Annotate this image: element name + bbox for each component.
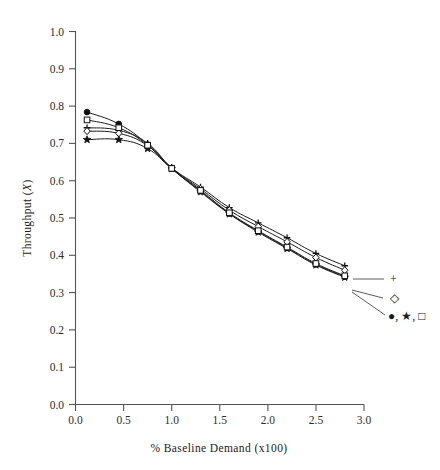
- x-axis-ticklabels: 0.0 0.5 1.0 1.5 2.0 2.5 3.0: [68, 414, 371, 426]
- x-ticklabel: 0.0: [68, 414, 83, 426]
- series-plus: [84, 124, 348, 269]
- datapoint-filled-star: [83, 136, 90, 143]
- throughput-vs-baseline-demand-chart: 1.0 0.9 0.8 0.7 0.6 0.5 0.4 0.3 0.2 0.1 …: [0, 0, 440, 470]
- y-ticklabel: 0.6: [50, 175, 65, 187]
- y-ticklabel: 0.5: [50, 212, 65, 224]
- x-ticklabel: 1.5: [213, 414, 228, 426]
- y-ticklabel: 0.1: [50, 361, 65, 373]
- series-line-filled-star: [87, 139, 345, 278]
- datapoint-open-square: [284, 244, 290, 250]
- x-ticklabel: 3.0: [357, 414, 372, 426]
- y-ticklabel: 0.7: [50, 137, 65, 149]
- datapoint-open-square: [227, 210, 233, 216]
- data-series-layer: [83, 109, 348, 280]
- annot-plus-label: +: [390, 272, 397, 286]
- y-ticklabel: 0.2: [50, 324, 65, 336]
- y-axis-ticklabels: 1.0 0.9 0.8 0.7 0.6 0.5 0.4 0.3 0.2 0.1 …: [50, 26, 65, 411]
- axis-spines: [76, 31, 365, 405]
- leader-line-open-diamond: [352, 290, 383, 298]
- series-filled-star: [83, 136, 348, 281]
- annot-open-diamond-label: ◇: [390, 291, 400, 305]
- y-ticklabel: 0.4: [50, 249, 65, 261]
- y-axis-tickmarks: [69, 32, 76, 405]
- series-line-plus: [87, 128, 345, 266]
- datapoint-open-diamond: [84, 127, 90, 134]
- y-ticklabel: 0.3: [50, 287, 65, 299]
- datapoint-open-square: [145, 142, 151, 148]
- annotation-leader-lines: [352, 279, 385, 315]
- datapoint-open-square: [169, 166, 175, 172]
- chart-figure: 1.0 0.9 0.8 0.7 0.6 0.5 0.4 0.3 0.2 0.1 …: [0, 0, 440, 470]
- datapoint-open-square: [198, 188, 204, 194]
- y-ticklabel: 1.0: [50, 26, 65, 38]
- datapoint-open-square: [313, 261, 319, 267]
- datapoint-filled-circle: [84, 109, 90, 115]
- leader-line-group: [352, 292, 385, 315]
- series-open-diamond: [84, 127, 348, 273]
- y-ticklabel: 0.8: [50, 100, 65, 112]
- x-axis-tickmarks: [76, 405, 365, 412]
- x-ticklabel: 2.0: [261, 414, 276, 426]
- y-ticklabel: 0.0: [50, 399, 65, 411]
- x-ticklabel: 0.5: [116, 414, 131, 426]
- x-axis-title: % Baseline Demand (x100): [150, 442, 287, 455]
- datapoint-open-square: [116, 125, 122, 131]
- annot-group-label: ●, ★, □: [388, 309, 426, 323]
- datapoint-open-square: [342, 273, 348, 279]
- series-line-filled-circle: [87, 112, 345, 276]
- y-axis-title: Throughput (X): [21, 179, 34, 257]
- annotation-labels: + ◇ ●, ★, □: [388, 272, 426, 323]
- x-ticklabel: 2.5: [309, 414, 324, 426]
- axis-lines: [76, 31, 365, 405]
- series-line-open-diamond: [87, 131, 345, 270]
- datapoint-open-square: [255, 228, 261, 234]
- datapoint-open-square: [84, 117, 90, 123]
- datapoint-filled-star: [115, 136, 122, 143]
- y-ticklabel: 0.9: [50, 63, 65, 75]
- x-ticklabel: 1.0: [165, 414, 180, 426]
- svg-text:Throughput (X): Throughput (X): [21, 179, 34, 257]
- y-axis-title-text: Throughput: [21, 198, 34, 257]
